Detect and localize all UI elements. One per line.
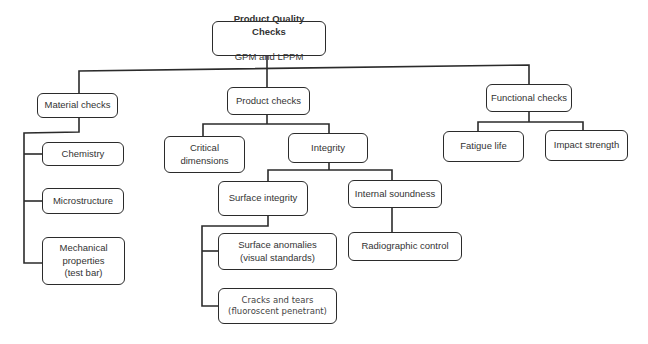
- root-subtitle: GPM and LPPM: [216, 51, 322, 64]
- node-integrity: Integrity: [288, 133, 368, 163]
- node-functional-checks: Functional checks: [486, 84, 572, 112]
- node-mechanical-properties: Mechanical properties (test bar): [42, 237, 125, 285]
- node-microstructure: Microstructure: [42, 188, 124, 214]
- node-radiographic-control: Radiographic control: [348, 232, 462, 261]
- root-title: Product Quality Checks: [216, 13, 322, 39]
- node-chemistry: Chemistry: [42, 142, 124, 166]
- node-fatigue-life: Fatigue life: [443, 131, 524, 162]
- node-product-checks: Product checks: [227, 87, 310, 115]
- node-material-checks: Material checks: [37, 93, 118, 118]
- node-impact-strength: Impact strength: [545, 130, 628, 161]
- node-internal-soundness: Internal soundness: [348, 180, 442, 208]
- root-node-product-quality-checks: Product Quality Checks GPM and LPPM: [212, 21, 326, 56]
- node-cracks-and-tears: Cracks and tears (fluoroscent penetrant): [218, 288, 337, 324]
- node-surface-integrity: Surface integrity: [218, 181, 308, 216]
- node-surface-anomalies: Surface anomalies (visual standards): [218, 233, 337, 270]
- node-critical-dimensions: Critical dimensions: [164, 136, 245, 173]
